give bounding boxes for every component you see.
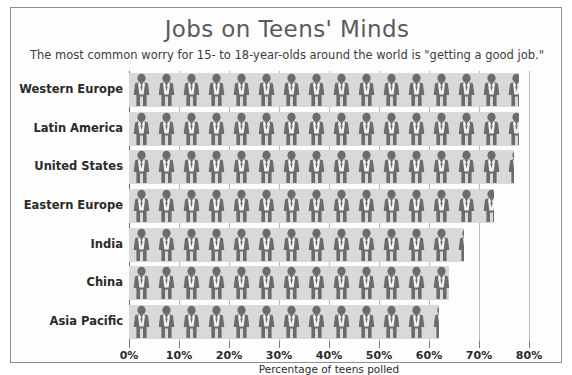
business-person-icon: [304, 73, 329, 107]
business-person-icon: [329, 73, 354, 107]
business-person-icon: [154, 73, 179, 107]
business-person-icon: [129, 112, 154, 146]
bar-india: [129, 228, 464, 262]
business-person-icon: [229, 150, 254, 184]
category-label-india: India: [13, 237, 123, 251]
business-person-icon: [504, 112, 519, 146]
business-person-icon: [304, 228, 329, 262]
business-person-icon: [304, 266, 329, 300]
business-person-icon: [179, 150, 204, 184]
business-person-icon: [304, 150, 329, 184]
business-person-icon: [254, 189, 279, 223]
chart-title: Jobs on Teens' Minds: [11, 16, 563, 42]
business-person-icon: [354, 73, 379, 107]
business-person-icon: [454, 150, 479, 184]
business-person-icon: [154, 112, 179, 146]
business-person-icon: [254, 73, 279, 107]
business-person-icon: [429, 305, 439, 339]
bar-row: [129, 148, 529, 187]
x-tick-60%: [429, 341, 430, 348]
business-person-icon: [354, 150, 379, 184]
business-person-icon: [129, 305, 154, 339]
business-person-icon: [279, 150, 304, 184]
business-person-icon: [329, 189, 354, 223]
business-person-icon: [279, 73, 304, 107]
business-person-icon: [329, 150, 354, 184]
business-person-icon: [429, 189, 454, 223]
business-person-icon: [354, 305, 379, 339]
plot-area: [129, 71, 529, 341]
business-person-icon: [454, 228, 464, 262]
business-person-icon: [179, 73, 204, 107]
x-tick-label-80%: 80%: [499, 349, 559, 362]
business-person-icon: [279, 189, 304, 223]
business-person-icon: [254, 228, 279, 262]
business-person-icon: [229, 73, 254, 107]
business-person-icon: [454, 73, 479, 107]
business-person-icon: [329, 305, 354, 339]
business-person-icon: [229, 189, 254, 223]
business-person-icon: [204, 228, 229, 262]
business-person-icon: [229, 228, 254, 262]
chart-page: Jobs on Teens' Minds The most common wor…: [0, 0, 572, 375]
business-person-icon: [279, 228, 304, 262]
business-person-icon: [354, 266, 379, 300]
business-person-icon: [204, 305, 229, 339]
x-tick-50%: [379, 341, 380, 348]
business-person-icon: [179, 266, 204, 300]
business-person-icon: [204, 112, 229, 146]
business-person-icon: [229, 112, 254, 146]
category-label-united-states: United States: [13, 159, 123, 173]
chart-frame: Jobs on Teens' Minds The most common wor…: [10, 7, 562, 363]
business-person-icon: [154, 189, 179, 223]
business-person-icon: [379, 305, 404, 339]
business-person-icon: [129, 150, 154, 184]
business-person-icon: [379, 266, 404, 300]
business-person-icon: [479, 73, 504, 107]
business-person-icon: [329, 266, 354, 300]
bar-latin-america: [129, 112, 519, 146]
business-person-icon: [379, 112, 404, 146]
category-axis-labels: Western EuropeLatin AmericaUnited States…: [11, 71, 123, 341]
bar-row: [129, 187, 529, 226]
business-person-icon: [354, 228, 379, 262]
category-label-eastern-europe: Eastern Europe: [13, 198, 123, 212]
business-person-icon: [279, 266, 304, 300]
bar-row: [129, 302, 529, 341]
x-tick-80%: [529, 341, 530, 348]
x-tick-30%: [279, 341, 280, 348]
x-axis-title: Percentage of teens polled: [129, 363, 529, 375]
business-person-icon: [154, 150, 179, 184]
x-tick-0%: [129, 341, 130, 348]
bar-row: [129, 264, 529, 303]
x-tick-40%: [329, 341, 330, 348]
category-label-asia-pacific: Asia Pacific: [13, 314, 123, 328]
business-person-icon: [304, 305, 329, 339]
business-person-icon: [254, 150, 279, 184]
business-person-icon: [129, 189, 154, 223]
bar-china: [129, 266, 449, 300]
business-person-icon: [429, 73, 454, 107]
business-person-icon: [154, 305, 179, 339]
business-person-icon: [329, 112, 354, 146]
business-person-icon: [279, 112, 304, 146]
x-tick-70%: [479, 341, 480, 348]
business-person-icon: [404, 305, 429, 339]
business-person-icon: [404, 150, 429, 184]
business-person-icon: [504, 73, 519, 107]
business-person-icon: [129, 266, 154, 300]
business-person-icon: [404, 189, 429, 223]
category-label-western-europe: Western Europe: [13, 82, 123, 96]
business-person-icon: [329, 228, 354, 262]
business-person-icon: [179, 305, 204, 339]
business-person-icon: [279, 305, 304, 339]
category-label-latin-america: Latin America: [13, 121, 123, 135]
business-person-icon: [129, 73, 154, 107]
business-person-icon: [429, 112, 454, 146]
business-person-icon: [379, 150, 404, 184]
business-person-icon: [354, 112, 379, 146]
bar-row: [129, 110, 529, 149]
chart-subtitle: The most common worry for 15- to 18-year…: [11, 48, 563, 62]
business-person-icon: [179, 112, 204, 146]
bar-eastern-europe: [129, 189, 494, 223]
